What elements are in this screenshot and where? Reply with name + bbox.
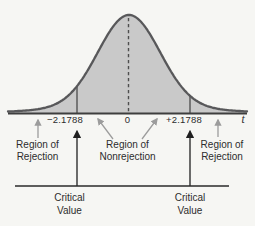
region-nonrejection-label: Region of Nonrejection <box>99 139 155 163</box>
critical-left-line1: Critical <box>54 192 85 205</box>
critical-value-right-label: Critical Value <box>175 192 206 217</box>
nonrejection-left-pointer-arrow <box>98 119 113 139</box>
nonrejection-right-pointer-arrow <box>142 119 157 139</box>
region-rejection-right-line2: Rejection <box>201 151 244 163</box>
bell-curve-fill <box>8 15 247 113</box>
critical-value-left-label: Critical Value <box>54 192 85 217</box>
tick-label-positive-critical: +2.1788 <box>166 114 202 125</box>
distribution-canvas <box>0 0 255 226</box>
region-nonrejection-line1: Region of <box>99 139 155 151</box>
region-rejection-right-label: Region of Rejection <box>201 139 244 163</box>
region-rejection-left-line2: Rejection <box>16 151 59 163</box>
critical-left-line2: Value <box>54 205 85 218</box>
region-nonrejection-line2: Nonrejection <box>99 151 155 163</box>
region-rejection-left-label: Region of Rejection <box>16 139 59 163</box>
figure-t-distribution: −2.1788 0 +2.1788 t Region of Rejection … <box>0 0 255 226</box>
tick-label-negative-critical: −2.1788 <box>47 114 83 125</box>
region-rejection-left-line1: Region of <box>16 139 59 151</box>
tick-label-zero: 0 <box>125 114 130 125</box>
region-rejection-right-line1: Region of <box>201 139 244 151</box>
critical-right-line2: Value <box>175 205 206 218</box>
critical-right-line1: Critical <box>175 192 206 205</box>
t-axis-label: t <box>241 113 244 125</box>
